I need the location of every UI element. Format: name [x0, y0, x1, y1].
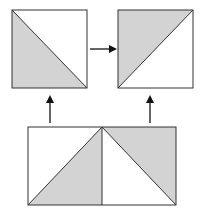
diagram-canvas [0, 0, 201, 212]
top-right-square [118, 10, 193, 88]
bottom-rectangle [28, 127, 176, 205]
top-left-square [12, 10, 87, 88]
